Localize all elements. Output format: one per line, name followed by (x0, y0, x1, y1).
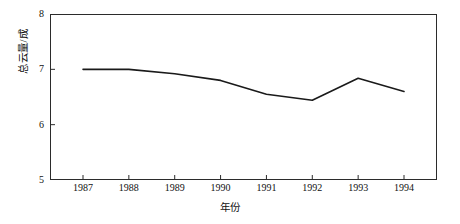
x-axis-title: 年份 (0, 199, 460, 214)
data-series-line (83, 69, 404, 100)
data-line-layer (0, 0, 460, 224)
chart-figure: 总云量/成 5678198719881989199019911992199319… (0, 0, 460, 224)
